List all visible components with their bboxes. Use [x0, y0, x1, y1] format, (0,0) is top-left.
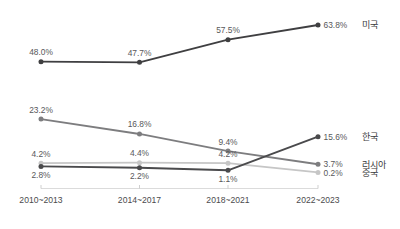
data-point [39, 117, 44, 122]
data-point [316, 162, 321, 167]
data-point [226, 161, 231, 166]
series-label-2: 중국 [362, 168, 378, 178]
data-point [316, 170, 321, 175]
value-label: 4.2% [31, 149, 51, 159]
x-tick-label-2: 2018~2021 [206, 195, 249, 205]
data-point [226, 168, 231, 173]
value-label: 57.5% [216, 25, 240, 35]
value-label: 47.7% [128, 48, 152, 58]
value-label: 1.1% [218, 174, 238, 184]
data-point [137, 160, 142, 165]
data-point [137, 60, 142, 65]
series-label-3: 한국 [362, 132, 378, 142]
x-tick-label-1: 2014~2017 [118, 195, 161, 205]
chart-canvas: 48.0%47.7%57.5%63.8%23.2%16.8%9.4%3.7%4.… [0, 0, 400, 229]
value-label: 15.6% [324, 132, 348, 142]
data-point [137, 131, 142, 136]
data-point [316, 134, 321, 139]
value-label: 16.8% [128, 119, 152, 129]
value-label: 23.2% [29, 105, 53, 115]
series-label-0: 미국 [362, 20, 378, 30]
data-point [226, 37, 231, 42]
data-point [39, 164, 44, 169]
data-point [316, 23, 321, 28]
value-label: 63.8% [324, 20, 348, 30]
data-point [137, 165, 142, 170]
value-label: 2.2% [130, 171, 150, 181]
value-label: 9.4% [218, 137, 238, 147]
value-label: 4.4% [130, 148, 150, 158]
value-label: 4.2% [218, 149, 238, 159]
x-tick-label-0: 2010~2013 [19, 195, 62, 205]
value-label: 48.0% [29, 47, 53, 57]
value-label: 2.8% [31, 170, 51, 180]
line-chart: 48.0%47.7%57.5%63.8%23.2%16.8%9.4%3.7%4.… [0, 0, 400, 229]
data-point [39, 59, 44, 64]
value-label: 0.2% [324, 168, 344, 178]
x-tick-label-3: 2022~2023 [296, 195, 339, 205]
